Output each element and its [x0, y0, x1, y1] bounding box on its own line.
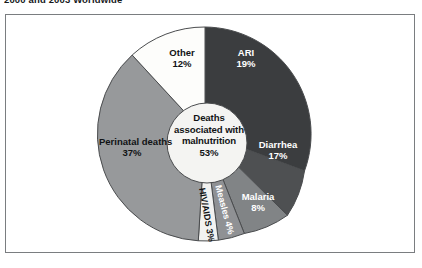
- slice-label-hiv-aids-value: 3%: [204, 228, 216, 243]
- pie-chart: Other 12% ARI 19% Diarrhea 17% Perinatal…: [0, 0, 422, 268]
- center-line-2: associated with: [174, 124, 244, 135]
- center-line-1: Deaths: [193, 112, 224, 123]
- center-line-3: malnutrition: [182, 135, 236, 146]
- donut-center-label: Deaths associated with malnutrition 53%: [168, 112, 250, 158]
- screenshot-page: 2000 and 2003 Worldwide: [0, 0, 422, 268]
- center-value: 53%: [168, 147, 250, 159]
